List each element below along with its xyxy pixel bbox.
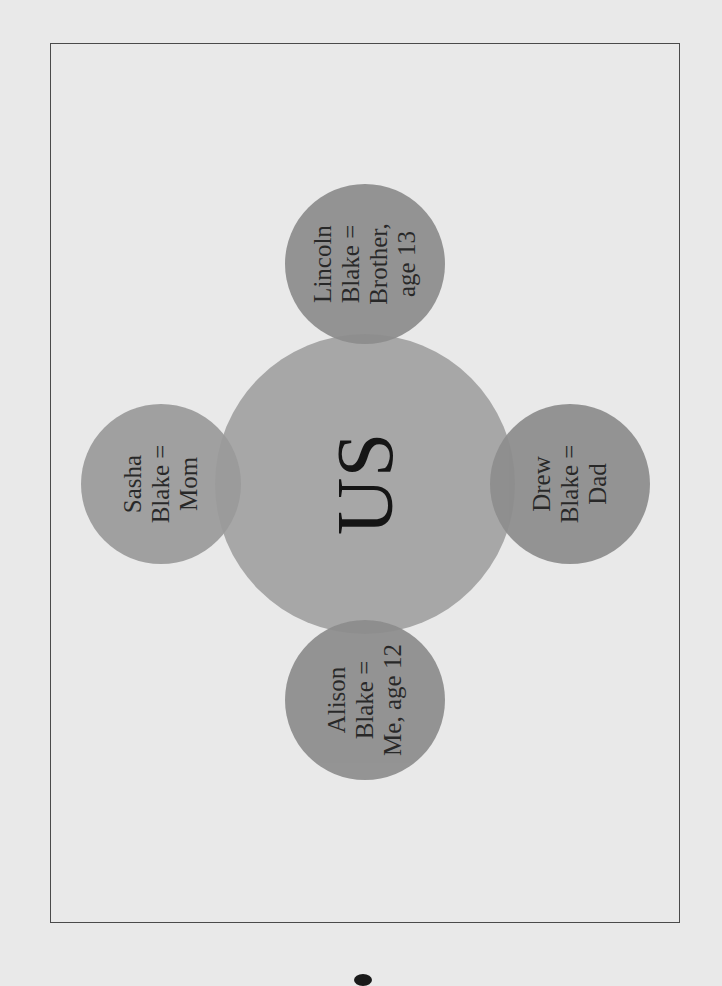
member-label-line: Mom xyxy=(175,445,203,524)
center-circle-us: US xyxy=(215,334,515,634)
center-label: US xyxy=(325,433,405,535)
member-label: Sasha Blake = Mom xyxy=(119,445,203,524)
member-circle-lincoln: Lincoln Blake = Brother, age 13 xyxy=(285,184,445,344)
member-circle-sasha: Sasha Blake = Mom xyxy=(81,404,241,564)
member-label: Drew Blake = Dad xyxy=(528,445,612,524)
member-circle-alison: Alison Blake = Me, age 12 xyxy=(285,620,445,780)
member-label-line: Blake = xyxy=(556,445,584,524)
member-label-line: Brother, xyxy=(365,223,393,305)
member-label-line: Blake = xyxy=(351,644,379,756)
member-label-line: Sasha xyxy=(119,445,147,524)
member-label-line: age 13 xyxy=(393,223,421,305)
member-label-line: Me, age 12 xyxy=(379,644,407,756)
member-label-line: Lincoln xyxy=(309,223,337,305)
member-label-line: Drew xyxy=(528,445,556,524)
page-number-mark xyxy=(354,974,372,986)
member-label: Lincoln Blake = Brother, age 13 xyxy=(309,223,421,305)
member-label: Alison Blake = Me, age 12 xyxy=(323,644,407,756)
member-label-line: Alison xyxy=(323,644,351,756)
member-circle-drew: Drew Blake = Dad xyxy=(490,404,650,564)
member-label-line: Blake = xyxy=(337,223,365,305)
member-label-line: Dad xyxy=(584,445,612,524)
member-label-line: Blake = xyxy=(147,445,175,524)
